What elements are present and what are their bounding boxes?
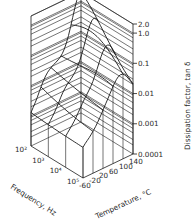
wall-gridline xyxy=(31,10,133,42)
z-axis-title: Dissipation factor, tan δ xyxy=(183,61,192,150)
wall-gridline xyxy=(31,63,133,95)
frequency-axis-title: Frequency, Hz xyxy=(9,182,58,217)
axis-labels: 2.01.00.10.010.0010.000110²10³10⁴10⁵-60-… xyxy=(9,20,192,222)
temperature-axis-title: Temperature, °C xyxy=(93,187,152,221)
z-tick-label: 0.001 xyxy=(138,119,159,128)
frequency-tick-label: 10² xyxy=(15,145,27,154)
frequency-tick-label: 10³ xyxy=(32,156,44,165)
wall-gridline xyxy=(31,122,133,154)
wall-gridline xyxy=(31,101,133,133)
wall-gridline xyxy=(31,0,133,24)
z-tick-label: 0.1 xyxy=(138,59,149,68)
temperature-tick-label: 140 xyxy=(129,157,143,166)
surface-line-frequency xyxy=(83,74,133,147)
z-tick-label: 0.01 xyxy=(138,89,154,98)
wall-gridline xyxy=(31,2,133,34)
temperature-tick-label: 20 xyxy=(99,171,109,180)
chart-svg: 2.01.00.10.010.0010.000110²10³10⁴10⁵-60-… xyxy=(0,0,193,222)
z-tick-label: 1.0 xyxy=(138,29,150,38)
temperature-tick-label: 60 xyxy=(109,167,119,176)
wall-gridline xyxy=(31,40,133,72)
z-tick-label: 2.0 xyxy=(138,20,150,29)
frequency-tick-label: 10⁴ xyxy=(50,166,62,175)
wall-gridline xyxy=(31,0,133,24)
frequency-tick-label: 10⁵ xyxy=(67,177,79,186)
wall-gridline xyxy=(31,93,133,125)
